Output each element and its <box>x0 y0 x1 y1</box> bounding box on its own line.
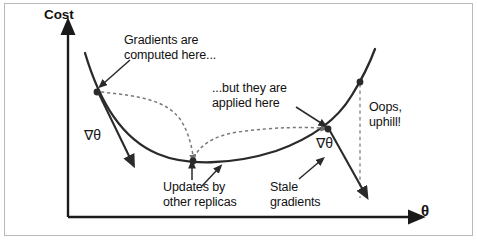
y-axis-label: Cost <box>44 8 74 23</box>
gradient-symbol-left: ∇θ <box>84 128 101 143</box>
annotation-but-applied: ...but they are applied here <box>212 81 287 110</box>
x-axis-label: θ <box>421 204 429 219</box>
applied-here-point <box>325 126 332 133</box>
gradient-symbol-right: ∇θ <box>316 136 333 151</box>
gradient-arrow-right <box>330 131 363 190</box>
gradients-computed-point <box>94 89 101 96</box>
pointer-to-stale-gradients <box>299 162 319 179</box>
minimum-point <box>190 158 197 165</box>
gradient-descent-figure: Cost θ Gradients are computed here... ..… <box>0 0 477 241</box>
pointer-to-applied-point <box>296 107 321 123</box>
annotation-gradients-computed: Gradients are computed here... <box>124 33 216 62</box>
pointer-to-computed-point <box>104 60 130 83</box>
gradient-arrow-left <box>99 94 130 158</box>
uphill-point <box>357 79 364 86</box>
annotation-updates-by-replicas: Updates by other replicas <box>163 180 237 209</box>
update-path-right <box>191 127 322 163</box>
plot-canvas <box>0 0 477 241</box>
annotation-stale-gradients: Stale gradients <box>270 180 321 209</box>
annotation-oops-uphill: Oops, uphill! <box>369 100 402 129</box>
update-path-left <box>101 92 193 156</box>
